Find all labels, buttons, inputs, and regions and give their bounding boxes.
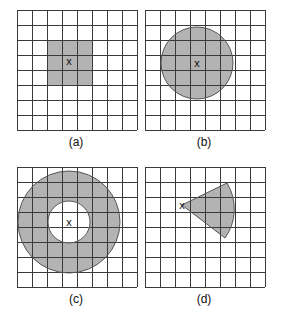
center-marker: x (66, 216, 72, 228)
panel-caption-d: (d) (197, 292, 212, 306)
center-marker: x (179, 199, 185, 211)
panel-caption-c: (c) (69, 292, 83, 306)
panel-caption-b: (b) (197, 135, 212, 149)
center-marker: x (66, 55, 72, 67)
panel-caption-a: (a) (69, 135, 84, 149)
center-marker: x (194, 57, 200, 69)
diagram-canvas: x(a)x(b)x(c)x(d) (0, 0, 281, 322)
